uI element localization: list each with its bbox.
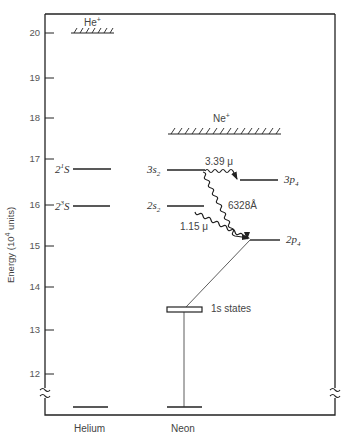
x-label-helium: Helium xyxy=(74,424,105,434)
y-tick-18: 18 xyxy=(20,113,40,123)
y-tick-20: 20 xyxy=(20,28,40,38)
x-label-neon: Neon xyxy=(171,424,195,434)
axis-break-left xyxy=(40,389,50,398)
energy-level-diagram xyxy=(0,0,354,442)
ne-1s-states-box xyxy=(167,307,202,312)
transition-label-1-15: 1.15 μ xyxy=(180,222,208,232)
ne-label-3s2: 3s2 xyxy=(147,164,160,178)
he-label-2-1S: 21S xyxy=(55,163,70,175)
y-tick-14: 14 xyxy=(20,282,40,292)
y-axis-label: Energy (104 units) xyxy=(4,207,16,283)
ne-label-2s2: 2s2 xyxy=(147,200,160,214)
axis-break-right xyxy=(330,389,340,398)
y-tick-12: 12 xyxy=(20,369,40,379)
y-tick-16: 16 xyxy=(20,200,40,210)
ne-label-1s-states: 1s states xyxy=(211,304,251,314)
ne-ion-label: Ne+ xyxy=(213,112,230,124)
he-label-2-3S: 23S xyxy=(55,200,70,212)
transition-label-6328: 6328Å xyxy=(228,201,257,211)
axes-frame xyxy=(45,14,335,415)
y-tick-19: 19 xyxy=(20,73,40,83)
y-tick-13: 13 xyxy=(20,325,40,335)
he-ion-limit xyxy=(71,28,114,33)
y-tick-15: 15 xyxy=(20,241,40,251)
transition-3s2-3p4-wave xyxy=(205,170,237,180)
decay-2p4-to-1s xyxy=(186,240,250,307)
y-tick-17: 17 xyxy=(20,154,40,164)
ne-label-2p4: 2p4 xyxy=(286,234,301,248)
y-ticks xyxy=(45,33,54,374)
transition-label-3-39: 3.39 μ xyxy=(205,157,233,167)
he-ion-label: He+ xyxy=(84,16,101,28)
ne-label-3p4: 3p4 xyxy=(284,174,299,188)
ne-ion-limit xyxy=(168,128,281,134)
